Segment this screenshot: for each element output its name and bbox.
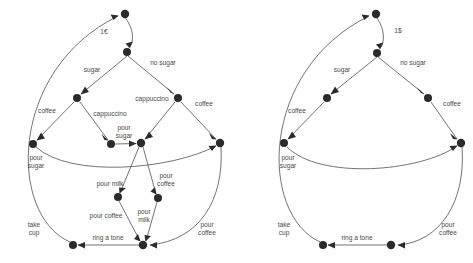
edge-label-pour-sugar-long-l1: pour [29, 154, 43, 162]
edge-label-cappuccino-left: cappuccino [93, 110, 127, 118]
arrow-1dollar [376, 43, 384, 50]
edge-label-no-sugar: no sugar [150, 59, 176, 67]
edge-label-pour-coffee-3-l1: pour [200, 221, 214, 229]
graph-canvas: 1€ sugar no sugar coffee cappuccino capp… [0, 0, 473, 263]
node-coffee-poured[interactable] [154, 194, 162, 202]
edge-take-cup-r [279, 16, 369, 242]
edge-label-coffee-right: coffee [195, 100, 213, 107]
edge-label-ring-a-tone: ring a tone [92, 234, 123, 242]
node-cup-ready[interactable] [69, 241, 77, 249]
node-paid[interactable] [123, 48, 131, 56]
edge-cappuccino-left [80, 102, 108, 140]
edge-label-pour-coffee-1-l1: pour [159, 172, 173, 180]
arrow-pour-sugar-center [129, 141, 137, 148]
edge-sugar [81, 56, 127, 94]
edge-pour-sugar-r [287, 146, 457, 169]
right-panel-group: 1$ sugar no sugar coffee coffee pour sug… [278, 10, 465, 249]
edge-label-pour-sugar-r-l2: sugar [280, 162, 297, 170]
arrow-coffee-left-r [288, 132, 297, 140]
edge-label-coffee-right-r: coffee [443, 100, 461, 107]
node-sugar-chosen-r[interactable] [323, 94, 331, 102]
node-paid-r[interactable] [373, 49, 381, 57]
edge-label-pour-sugar-center-l2: sugar [116, 132, 133, 140]
edge-take-cup [28, 16, 118, 242]
edge-label-no-sugar-r: no sugar [400, 59, 426, 67]
edge-coffee-right [181, 102, 216, 139]
edge-label-pour-sugar-long-l2: sugar [28, 162, 45, 170]
node-no-sugar-chosen-r[interactable] [424, 94, 432, 102]
edge-label-pour-milk: pour milk [97, 180, 124, 188]
edge-label-coffee-left-r: coffee [288, 107, 306, 114]
arrow-pour-coffee-1 [151, 187, 157, 195]
edge-label-ring-a-tone-r: ring a tone [341, 234, 372, 242]
node-drink-complete[interactable] [139, 241, 147, 249]
edge-label-pour-coffee-1-l2: coffee [157, 180, 175, 187]
edge-label-take-cup-r-l2: cup [279, 229, 290, 237]
edge-label-pour-sugar-center-l1: pour [117, 124, 131, 132]
edge-label-take-cup-l1: take [28, 221, 41, 228]
edge-label-take-cup-l2: cup [29, 229, 40, 237]
edge-sugar-r [331, 57, 377, 94]
arrow-pour-coffee-3 [150, 242, 158, 249]
arrow-ring-a-tone [78, 242, 86, 249]
node-coffee-ready-r[interactable] [457, 139, 465, 147]
node-sugar-chosen[interactable] [73, 94, 81, 102]
arrow-sugar [81, 87, 90, 95]
edge-label-1euro: 1€ [100, 28, 108, 35]
edge-label-pour-milk-2-l2: milk [138, 216, 150, 223]
arrow-no-sugar-r [417, 87, 425, 95]
node-idle[interactable] [121, 10, 129, 18]
node-drink-complete-r[interactable] [387, 241, 395, 249]
node-coffee-with-sugar-r[interactable] [280, 139, 288, 147]
node-cappuccino-ready[interactable] [137, 139, 145, 147]
arrow-1euro [126, 42, 134, 49]
node-idle-r[interactable] [372, 10, 380, 18]
node-coffee-ready[interactable] [216, 139, 224, 147]
edge-pour-sugar-long [36, 146, 216, 167]
edge-label-sugar: sugar [84, 66, 101, 74]
node-no-sugar-chosen[interactable] [174, 94, 182, 102]
arrow-pour-coffee-r [398, 242, 406, 249]
edge-coffee-right-r [431, 102, 457, 139]
edge-pour-coffee-1 [143, 147, 156, 194]
edge-label-pour-coffee-r-l1: pour [441, 221, 455, 229]
arrow-cappuccino-right [145, 132, 154, 140]
arrow-pour-sugar-long [209, 146, 217, 152]
edge-label-cappuccino-right: cappuccino [135, 95, 169, 103]
node-cappuccino-with-sugar[interactable] [107, 140, 115, 148]
edge-label-1dollar: 1$ [394, 27, 402, 34]
arrow-sugar-r [331, 87, 340, 95]
node-coffee-with-sugar[interactable] [29, 140, 37, 148]
edge-label-pour-milk-2-l1: pour [137, 208, 151, 216]
edge-label-pour-coffee-2: pour coffee [90, 212, 123, 220]
edge-label-pour-sugar-r-l1: pour [281, 154, 295, 162]
left-panel-group: 1€ sugar no sugar coffee cappuccino capp… [28, 10, 224, 249]
edge-label-take-cup-r-l1: take [278, 221, 291, 228]
arrow-pour-coffee-2 [134, 234, 141, 242]
edge-label-pour-coffee-r-l2: coffee [439, 229, 457, 236]
state-transition-diagram-figure: 1€ sugar no sugar coffee cappuccino capp… [0, 0, 473, 263]
arrow-ring-a-tone-r [328, 242, 336, 249]
edge-label-pour-coffee-3-l2: coffee [198, 229, 216, 236]
node-cup-ready-r[interactable] [319, 241, 327, 249]
edge-label-sugar-r: sugar [334, 66, 351, 74]
arrow-pour-milk [119, 188, 126, 194]
edge-label-coffee-left: coffee [38, 107, 56, 114]
arrow-pour-milk-2 [145, 235, 152, 242]
node-milk-poured[interactable] [114, 193, 122, 201]
